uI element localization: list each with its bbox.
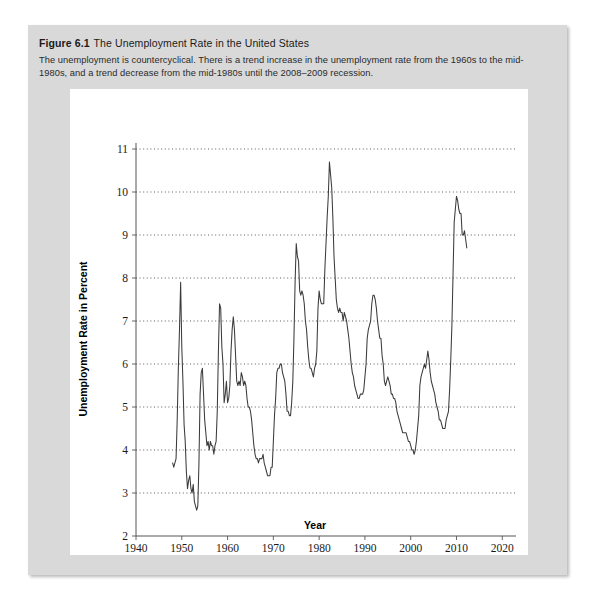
caption-block: Figure 6.1The Unemployment Rate in the U…: [39, 36, 539, 79]
figure-title: Figure 6.1The Unemployment Rate in the U…: [39, 36, 539, 50]
y-axis-title: Unemployment Rate in Percent: [77, 261, 89, 417]
x-tick-label: 1940: [125, 542, 148, 554]
x-tick-label: 2000: [399, 542, 422, 554]
figure-title-text: The Unemployment Rate in the United Stat…: [94, 37, 309, 49]
x-tick-label: 2010: [445, 542, 468, 554]
y-axis-tick-labels: 234567891011: [117, 143, 129, 542]
x-axis-tick-labels: 194019501960197019801990200020102020: [125, 542, 515, 554]
x-tick-label: 1960: [216, 542, 239, 554]
y-tick-label: 6: [122, 358, 128, 370]
figure-panel: Figure 6.1The Unemployment Rate in the U…: [28, 25, 567, 575]
figure-subtitle: The unemployment is countercyclical. The…: [39, 54, 531, 79]
y-tick-label: 11: [117, 143, 128, 155]
y-tick-label: 8: [122, 272, 128, 284]
y-tick-label: 2: [122, 530, 128, 542]
y-tick-label: 10: [117, 186, 129, 198]
y-tick-label: 5: [122, 401, 128, 413]
y-tick-label: 4: [122, 444, 128, 456]
x-tick-label: 1980: [308, 542, 331, 554]
figure-number: Figure 6.1: [39, 37, 90, 49]
unemployment-line-chart: 234567891011 194019501960197019801990200…: [70, 89, 528, 555]
x-axis-ticks: [136, 536, 502, 540]
y-tick-label: 3: [122, 487, 128, 499]
x-tick-label: 2020: [491, 542, 514, 554]
y-tick-label: 7: [122, 315, 128, 327]
x-axis-title: Year: [304, 519, 326, 531]
x-tick-label: 1970: [262, 542, 285, 554]
chart-area: 234567891011 194019501960197019801990200…: [70, 89, 528, 555]
x-tick-label: 1990: [353, 542, 376, 554]
y-tick-label: 9: [122, 229, 128, 241]
unemployment-rate-line: [173, 162, 467, 510]
axis-lines: [136, 143, 516, 536]
plot-card: 234567891011 194019501960197019801990200…: [70, 89, 528, 555]
x-tick-label: 1950: [170, 542, 193, 554]
